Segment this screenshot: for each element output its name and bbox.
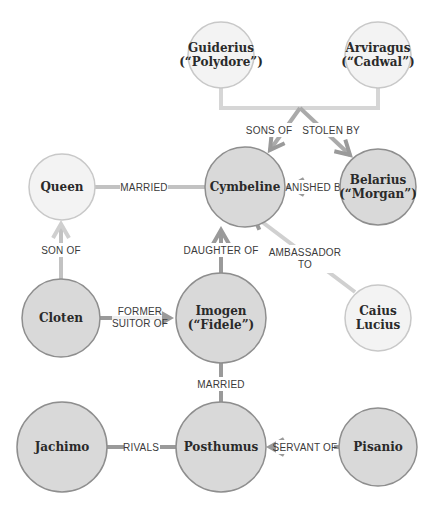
- node-belarius: Belarius (“Morgan”): [339, 149, 417, 225]
- label-stolen-by: STOLEN BY: [302, 125, 360, 136]
- edge-sons-bracket: [221, 88, 378, 108]
- label-married-imogen: MARRIED: [197, 379, 245, 390]
- label-banished-by: BANISHED BY: [278, 182, 348, 193]
- node-caius-lucius-line2: Lucius: [356, 318, 401, 332]
- node-imogen-alias: (“Fidele”): [188, 318, 254, 332]
- node-cloten-name: Cloten: [39, 311, 83, 325]
- node-arviragus-name: Arviragus: [344, 41, 410, 55]
- node-imogen: Imogen (“Fidele”): [176, 273, 266, 363]
- label-son-of: SON OF: [41, 245, 81, 256]
- node-guiderius-alias: (“Polydore”): [179, 55, 263, 69]
- label-ambassador-line2: TO: [298, 259, 312, 270]
- node-imogen-name: Imogen: [195, 304, 246, 318]
- node-jachimo-name: Jachimo: [34, 440, 90, 454]
- node-arviragus-alias: (“Cadwal”): [341, 55, 415, 69]
- node-caius-lucius: Caius Lucius: [345, 285, 411, 351]
- label-former-suitor-line1: FORMER: [118, 306, 163, 317]
- node-belarius-alias: (“Morgan”): [339, 187, 417, 201]
- node-cloten: Cloten: [22, 279, 100, 357]
- label-ambassador-line1: AMBASSADOR: [269, 247, 342, 258]
- node-jachimo: Jachimo: [17, 402, 107, 492]
- node-belarius-name: Belarius: [350, 173, 407, 187]
- node-posthumus-name: Posthumus: [184, 440, 259, 454]
- label-sons-of: SONS OF: [246, 125, 292, 136]
- label-rivals: RIVALS: [123, 442, 159, 453]
- node-pisanio: Pisanio: [339, 408, 417, 486]
- node-cymbeline: Cymbeline: [205, 147, 285, 227]
- node-arviragus: Arviragus (“Cadwal”): [341, 22, 415, 88]
- node-queen-name: Queen: [40, 180, 83, 194]
- node-queen: Queen: [29, 154, 95, 220]
- label-daughter-of: DAUGHTER OF: [184, 245, 259, 256]
- node-pisanio-name: Pisanio: [353, 440, 402, 454]
- node-posthumus: Posthumus: [176, 402, 266, 492]
- node-caius-lucius-line1: Caius: [359, 304, 397, 318]
- node-guiderius-name: Guiderius: [188, 41, 254, 55]
- label-former-suitor-line2: SUITOR OF: [112, 318, 168, 329]
- relationship-diagram: SONS OF STOLEN BY MARRIED BANISHED BY SO…: [0, 0, 442, 515]
- label-married-queen: MARRIED: [120, 182, 168, 193]
- label-servant-of: SERVANT OF: [273, 442, 338, 453]
- node-guiderius: Guiderius (“Polydore”): [179, 22, 263, 88]
- node-cymbeline-name: Cymbeline: [210, 180, 281, 194]
